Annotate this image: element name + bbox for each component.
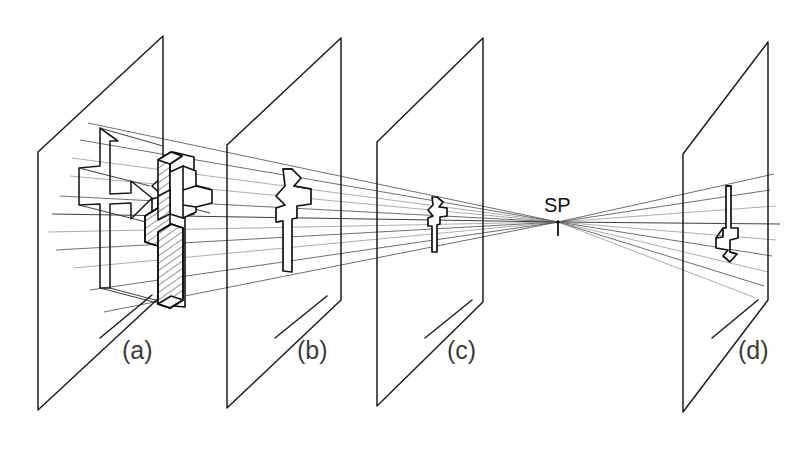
perspective-projection-figure: SP (a) (b) (c) (d) <box>0 0 797 451</box>
plane-label-d: (d) <box>738 336 769 364</box>
plane-label-a: (a) <box>122 336 153 364</box>
plane-label-b: (b) <box>297 336 328 364</box>
figure-background <box>0 0 797 451</box>
diagram-canvas: SP (a) (b) (c) (d) <box>0 0 797 451</box>
plane-label-c: (c) <box>447 336 476 364</box>
station-point-label: SP <box>544 194 571 216</box>
